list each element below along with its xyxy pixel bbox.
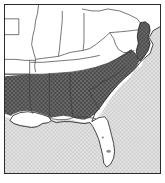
lake-small-north [102,136,104,138]
gulf-water-edge [5,128,160,173]
map-canvas [5,5,160,173]
distribution-map-figure: Range Outside range Ocean / Gulf Southea… [0,0,165,183]
lake-okeechobee [106,150,110,153]
map-frame [4,4,161,174]
